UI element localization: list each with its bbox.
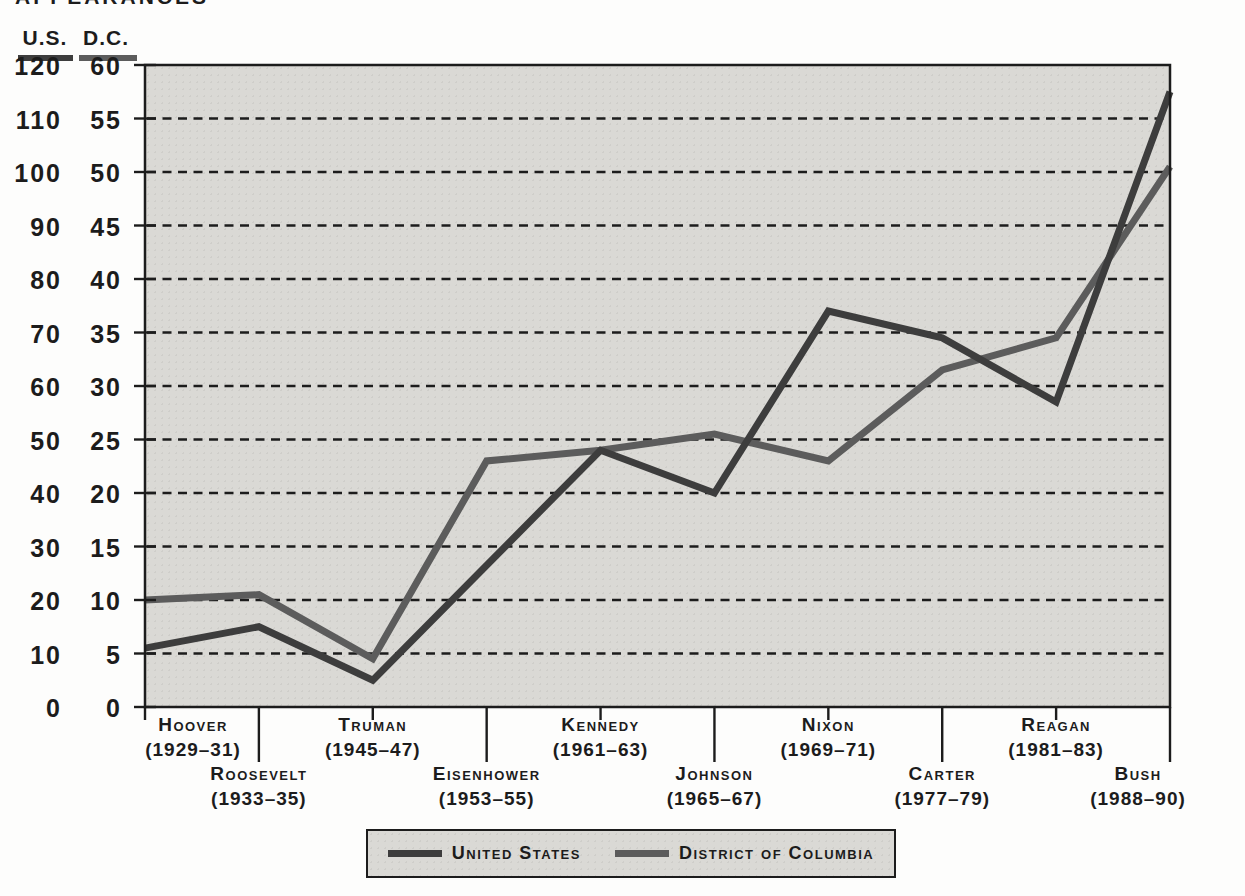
dc-axis-tick-label: 10 [66,587,122,616]
dc-axis-tick-label: 5 [66,641,122,670]
us-axis-tick-label: 60 [4,373,62,402]
legend-label-us: United States [452,843,581,864]
x-axis-category-label: Roosevelt(1933–35) [159,761,359,811]
president-years: (1965–67) [614,786,814,811]
dc-axis-tick-label: 35 [66,320,122,349]
president-name: Nixon [728,712,928,737]
president-years: (1961–63) [501,737,701,762]
legend-entry-dc: District of Columbia [615,843,874,864]
president-years: (1933–35) [159,786,359,811]
dc-axis-tick-label: 55 [66,106,122,135]
us-line-swatch [388,850,442,857]
us-axis-tick-label: 30 [4,534,62,563]
dc-axis-tick-label: 50 [66,159,122,188]
president-name: Reagan [956,712,1156,737]
president-name: Johnson [614,761,814,786]
x-axis-category-label: Kennedy(1961–63) [501,712,701,762]
dc-axis-tick-label: 25 [66,427,122,456]
us-axis-tick-label: 20 [4,587,62,616]
us-axis-tick-label: 100 [4,159,62,188]
x-axis-category-label: Bush(1988–90) [1038,761,1238,811]
legend-box: United States District of Columbia [366,829,896,878]
us-axis-tick-label: 120 [4,52,62,81]
president-years: (1988–90) [1038,786,1238,811]
dc-axis-tick-label: 60 [66,52,122,81]
president-name: Roosevelt [159,761,359,786]
us-axis-tick-label: 0 [4,694,62,723]
us-axis-tick-label: 50 [4,427,62,456]
president-name: Bush [1038,761,1238,786]
president-years: (1977–79) [842,786,1042,811]
president-name: Carter [842,761,1042,786]
legend-label-dc: District of Columbia [679,843,874,864]
president-years: (1945–47) [273,737,473,762]
president-name: Eisenhower [387,761,587,786]
x-axis-category-label: Reagan(1981–83) [956,712,1156,762]
us-axis-tick-label: 70 [4,320,62,349]
x-axis-category-label: Hoover(1929–31) [93,712,293,762]
us-axis-tick-label: 110 [4,106,62,135]
president-years: (1981–83) [956,737,1156,762]
x-axis-category-label: Truman(1945–47) [273,712,473,762]
us-axis-tick-label: 10 [4,641,62,670]
us-axis-tick-label: 90 [4,213,62,242]
x-axis-category-label: Nixon(1969–71) [728,712,928,762]
dc-axis-tick-label: 45 [66,213,122,242]
president-years: (1969–71) [728,737,928,762]
us-axis-tick-label: 40 [4,480,62,509]
dc-axis-tick-label: 20 [66,480,122,509]
us-axis-tick-label: 80 [4,266,62,295]
scanned-chart-page: APPEARANCES U.S. D.C. 120601105510050904… [0,0,1245,896]
president-name: Truman [273,712,473,737]
legend-entry-us: United States [388,843,581,864]
president-years: (1953–55) [387,786,587,811]
president-name: Hoover [93,712,293,737]
dc-line-swatch [615,850,669,857]
president-name: Kennedy [501,712,701,737]
x-axis-category-label: Eisenhower(1953–55) [387,761,587,811]
x-axis-category-label: Johnson(1965–67) [614,761,814,811]
dc-axis-tick-label: 15 [66,534,122,563]
x-axis-category-label: Carter(1977–79) [842,761,1042,811]
dc-series-line [145,167,1170,659]
dc-axis-tick-label: 30 [66,373,122,402]
president-years: (1929–31) [93,737,293,762]
dc-axis-tick-label: 40 [66,266,122,295]
